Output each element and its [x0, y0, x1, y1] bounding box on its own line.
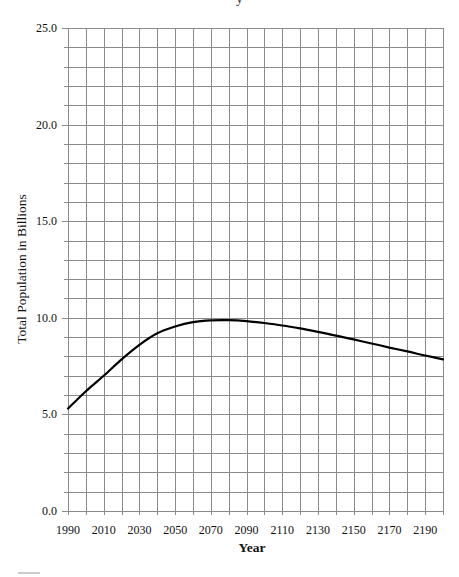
y-axis-label: Total Population in Billions — [14, 194, 29, 343]
x-axis-label: Year — [239, 540, 266, 555]
y-tick-label: 0.0 — [42, 504, 57, 518]
x-tick-label: 1990 — [56, 523, 80, 537]
x-tick-label: 2070 — [199, 523, 223, 537]
x-tick-label: 2110 — [271, 523, 295, 537]
y-axis-ticks: 0.05.010.015.020.025.0 — [36, 21, 57, 518]
y-tick-label: 15.0 — [36, 214, 57, 228]
x-tick-label: 2190 — [413, 523, 437, 537]
x-tick-label: 2050 — [163, 523, 187, 537]
grid-lines — [62, 28, 444, 515]
line-chart: 0.05.010.015.020.025.0 19902010203020502… — [0, 0, 459, 577]
y-tick-label: 5.0 — [42, 407, 57, 421]
y-tick-label: 20.0 — [36, 118, 57, 132]
x-tick-label: 2170 — [377, 523, 401, 537]
x-axis-ticks: 1990201020302050207020902110213021502170… — [56, 523, 437, 537]
x-tick-label: 2030 — [127, 523, 151, 537]
x-tick-label: 2150 — [342, 523, 366, 537]
y-tick-label: 25.0 — [36, 21, 57, 35]
x-tick-label: 2090 — [235, 523, 259, 537]
y-tick-label: 10.0 — [36, 311, 57, 325]
x-tick-label: 2130 — [306, 523, 330, 537]
cropped-text-fragment — [18, 572, 40, 574]
x-tick-label: 2010 — [92, 523, 116, 537]
